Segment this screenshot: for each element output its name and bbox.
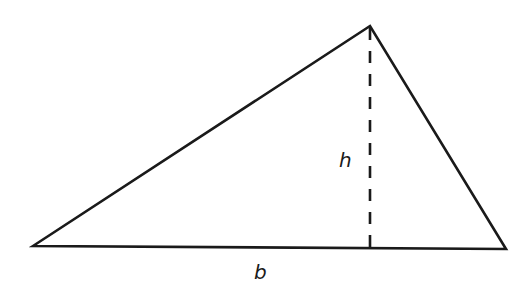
base-label: b <box>254 262 267 282</box>
height-label: h <box>339 150 352 170</box>
triangle-figure <box>0 0 530 292</box>
triangle-outline <box>33 26 506 249</box>
